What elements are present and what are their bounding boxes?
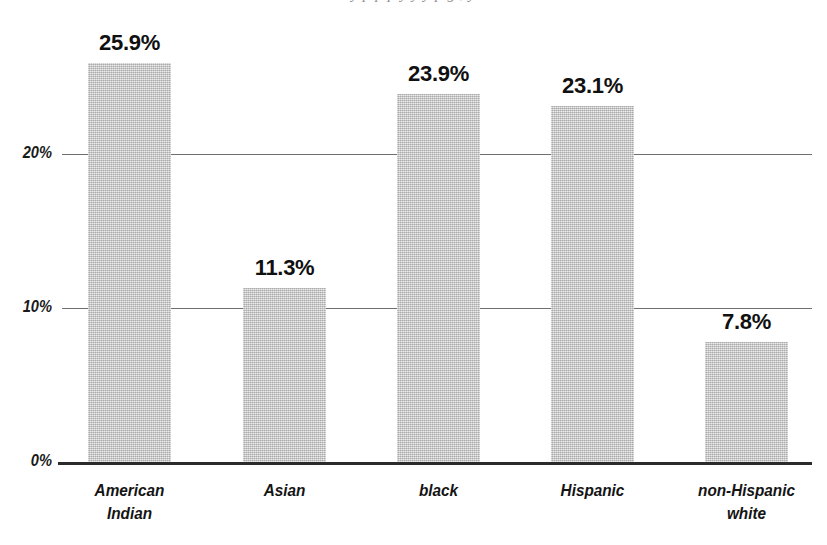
bar [243, 288, 326, 462]
x-axis-category-label: Asian [209, 479, 359, 502]
y-axis-tick-label-20pct: 20% [7, 143, 52, 163]
bar [397, 94, 480, 462]
bar-value-label: 23.9% [367, 61, 510, 87]
y-axis-tick-label-10pct: 10% [7, 297, 52, 317]
x-axis-category-label: Hispanic [517, 479, 667, 502]
bar [705, 342, 788, 462]
bar [551, 106, 634, 462]
bar-value-label: 11.3% [213, 255, 356, 281]
chart-figure: y p p p y y y p g , y 0%10%20%25.9%Ameri… [0, 0, 827, 545]
bar [88, 63, 171, 462]
bar-value-label: 25.9% [58, 30, 201, 56]
bar-value-label: 23.1% [521, 73, 664, 99]
y-axis-tick-label-0pct: 0% [7, 451, 52, 471]
x-axis-category-label: non-Hispanic white [671, 479, 821, 525]
x-axis-baseline [58, 462, 812, 465]
x-axis-category-label: black [363, 479, 513, 502]
plot-area: 0%10%20%25.9%American Indian11.3%Asian23… [0, 0, 827, 545]
bar-value-label: 7.8% [675, 309, 818, 335]
x-axis-category-label: American Indian [54, 479, 204, 525]
